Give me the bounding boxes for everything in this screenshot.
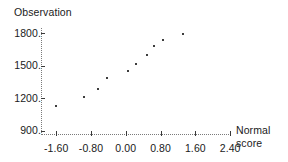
- data-point: [162, 39, 164, 41]
- plot-area: [0, 0, 288, 162]
- data-point: [55, 105, 57, 107]
- data-point: [135, 63, 137, 65]
- data-point: [127, 70, 129, 72]
- data-point: [97, 88, 99, 90]
- data-point: [146, 54, 148, 56]
- data-point: [182, 33, 184, 35]
- data-point: [106, 77, 108, 79]
- normal-probability-plot: Observation Normal score 900.1200.1500.1…: [0, 0, 288, 162]
- data-point: [83, 96, 85, 98]
- data-point: [153, 45, 155, 47]
